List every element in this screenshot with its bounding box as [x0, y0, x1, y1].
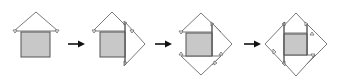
flap-tick	[13, 30, 17, 33]
top-flap	[14, 12, 58, 31]
left-flap	[265, 24, 284, 64]
flap-tick	[55, 30, 59, 33]
step-3	[179, 13, 232, 75]
right-flap	[125, 22, 145, 65]
folding-diagram	[0, 0, 346, 84]
flap-tick	[92, 30, 96, 33]
step-1	[13, 12, 59, 57]
arrow-2	[155, 41, 172, 48]
arrow-head	[165, 41, 172, 48]
arrow-head	[78, 41, 85, 48]
flap-tick	[179, 31, 183, 34]
arrow-head	[254, 41, 261, 48]
center-square	[284, 34, 307, 55]
center-square	[100, 32, 125, 57]
flap-tick	[214, 61, 217, 65]
bottom-flap	[181, 56, 221, 75]
flap-tick	[179, 52, 183, 55]
arrow-3	[244, 41, 261, 48]
step-2	[92, 12, 145, 66]
step-4	[265, 13, 327, 76]
center-square	[186, 33, 212, 56]
arrow-1	[68, 41, 85, 48]
center-square	[21, 32, 50, 57]
